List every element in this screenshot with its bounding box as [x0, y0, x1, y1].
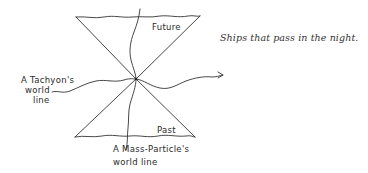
mass-particle-label-line-1: A Mass-Particle's [113, 144, 190, 154]
future-cone-top-edge [76, 16, 200, 18]
origin-event-dot [135, 78, 138, 81]
future-light-cone [76, 16, 200, 79]
mass-particle-label-line-2: world line [113, 157, 157, 167]
past-cone-bottom-edge [75, 135, 195, 137]
future-cone-left-edge [76, 17, 136, 79]
past-label: Past [157, 125, 176, 135]
arrow-right-icon [218, 72, 223, 78]
light-cone-diagram: Future Past A Tachyon's world line A Mas… [0, 0, 368, 173]
diagram-caption: Ships that pass in the night. [220, 32, 358, 43]
tachyon-label-line-3: line [33, 95, 50, 105]
past-cone-left-edge [75, 79, 136, 137]
tachyon-label-line-1: A Tachyon's [21, 75, 75, 85]
tachyon-label-line-2: world [25, 85, 50, 95]
future-label: Future [152, 22, 181, 32]
